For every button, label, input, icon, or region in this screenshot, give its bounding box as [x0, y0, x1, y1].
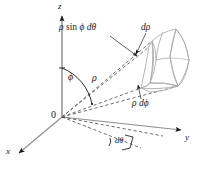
- arc-length-phi-label: ρ dϕ: [132, 99, 149, 109]
- phi-arc-endpoint: [91, 103, 93, 105]
- y-axis: [62, 117, 181, 130]
- x-axis-label: x: [6, 147, 10, 156]
- x-axis: [19, 117, 62, 153]
- leader-drho: [136, 33, 146, 54]
- phi-arc: [62, 68, 92, 104]
- origin-label: 0: [51, 110, 56, 120]
- arc-length-theta-label: ρ sin ϕ dθ: [59, 23, 96, 33]
- phi-arc-group: [59, 68, 93, 105]
- wedge-inner-face: [141, 41, 154, 88]
- y-axis-label: y: [185, 133, 189, 142]
- dtheta-symbol: dθ: [87, 22, 96, 32]
- radial-thickness-label: dρ: [141, 23, 150, 33]
- ray-wedge-lower-front: [62, 88, 141, 117]
- dtheta-arc: [109, 138, 111, 146]
- leader-lines-group: [110, 33, 146, 99]
- spherical-volume-element-figure: z x y 0 ρ sin ϕ dθ dρ ρ ϕ ρ dϕ dθ: [0, 0, 200, 169]
- volume-element-wedge: [141, 29, 189, 92]
- polar-angle-label: ϕ: [68, 72, 73, 82]
- z-axis-label: z: [58, 2, 62, 11]
- figure-canvas: [0, 0, 200, 169]
- leader-rho-sin-phi-dtheta: [110, 36, 137, 56]
- radius-label: ρ: [92, 73, 97, 83]
- sin-text: sin: [66, 22, 77, 32]
- azimuth-increment-label: dθ: [115, 136, 123, 145]
